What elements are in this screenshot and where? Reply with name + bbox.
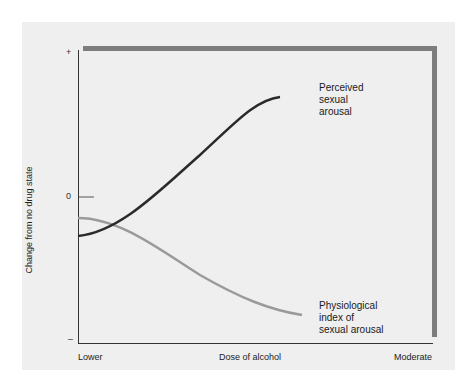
x-tick-moderate: Moderate	[394, 352, 432, 363]
y-axis-label: Change from no drug state	[24, 166, 34, 273]
y-tick-plus: +	[66, 47, 71, 57]
right-frame-bar	[432, 46, 437, 337]
physiological-arousal-line	[78, 218, 302, 315]
y-tick-zero: 0	[66, 191, 71, 201]
x-tick-lower: Lower	[78, 352, 103, 363]
perceived-series-label: Perceived sexual arousal	[319, 82, 363, 118]
y-tick-minus: –	[68, 334, 73, 344]
x-axis-label: Dose of alcohol	[219, 352, 281, 363]
top-frame-bar	[83, 46, 437, 51]
physiological-series-label: Physiological index of sexual arousal	[319, 300, 383, 336]
perceived-arousal-line	[78, 97, 280, 236]
